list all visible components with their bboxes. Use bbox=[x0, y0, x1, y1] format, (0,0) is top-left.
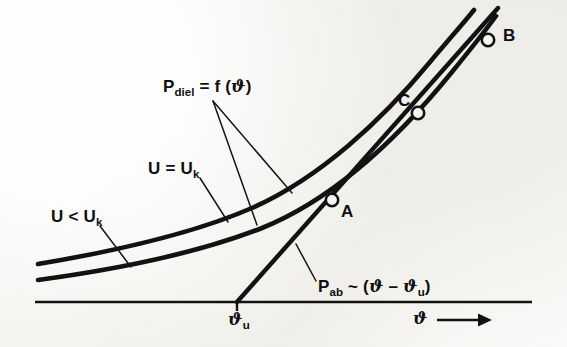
label-u-less-than-uk: U < Uk bbox=[51, 208, 102, 228]
line-p-ab bbox=[237, 8, 498, 302]
label-u-less-than-uk-base: U < U bbox=[51, 207, 96, 226]
curve-u-less-than-uk bbox=[38, 16, 496, 280]
figure-root: Pdiel = f (ϑ) U = Uk U < Uk Pab ~ (ϑ – ϑ… bbox=[0, 0, 567, 347]
label-p-absorbed: Pab ~ (ϑ – ϑu) bbox=[318, 278, 431, 298]
label-p-absorbed-sub2: u bbox=[418, 286, 425, 298]
label-p-absorbed-close: ) bbox=[425, 277, 431, 296]
label-theta-u-sub: u bbox=[243, 319, 250, 331]
label-p-dielectric-close: ) bbox=[246, 77, 252, 96]
label-p-dielectric-variable: ϑ bbox=[231, 76, 246, 96]
point-label-b: B bbox=[503, 27, 515, 44]
label-theta-u-variable: ϑ bbox=[228, 309, 243, 329]
label-p-absorbed-minus: – bbox=[384, 277, 404, 296]
label-theta-axis: ϑ bbox=[413, 310, 428, 327]
leader-u-equals-uk bbox=[200, 178, 228, 222]
label-u-equals-uk-sub: k bbox=[193, 168, 199, 180]
leader-pdiel-upper bbox=[213, 101, 292, 193]
label-u-less-than-uk-sub: k bbox=[96, 216, 102, 228]
label-p-absorbed-base: P bbox=[318, 277, 330, 296]
label-theta-u: ϑu bbox=[228, 311, 250, 331]
point-marker-a bbox=[326, 194, 338, 206]
label-p-absorbed-variable: ϑ bbox=[369, 276, 384, 296]
label-p-absorbed-sub: ab bbox=[330, 286, 343, 298]
label-p-dielectric-base: P bbox=[163, 77, 175, 96]
point-label-a: A bbox=[341, 203, 353, 220]
label-u-equals-uk-base: U = U bbox=[148, 159, 193, 178]
point-marker-b bbox=[482, 34, 494, 46]
theta-arrow-head bbox=[478, 314, 492, 327]
label-theta-axis-variable: ϑ bbox=[413, 308, 428, 328]
point-label-c: C bbox=[398, 92, 410, 109]
label-p-dielectric: Pdiel = f (ϑ) bbox=[163, 78, 252, 98]
curve-u-equals-uk bbox=[38, 10, 474, 264]
point-marker-c bbox=[412, 107, 424, 119]
label-p-absorbed-relation: ~ ( bbox=[343, 277, 369, 296]
label-p-absorbed-variable2: ϑ bbox=[403, 276, 418, 296]
label-p-dielectric-sub: diel bbox=[175, 86, 195, 98]
label-u-equals-uk: U = Uk bbox=[148, 160, 199, 180]
leader-pdiel-lower bbox=[213, 101, 257, 225]
label-p-dielectric-relation: = f ( bbox=[194, 77, 231, 96]
leader-pab bbox=[296, 244, 316, 281]
diagram-canvas bbox=[0, 0, 567, 347]
